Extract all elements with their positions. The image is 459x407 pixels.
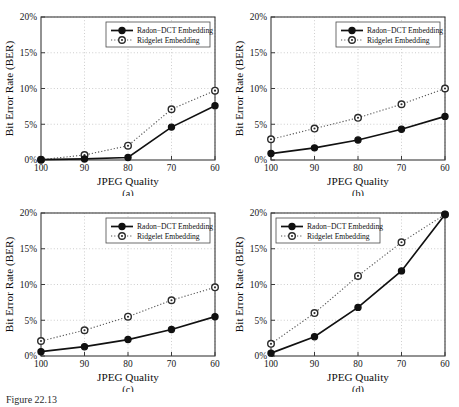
- data-point-marker-1: [442, 113, 448, 119]
- chart-svg-a: 0%5%10%15%20%10090807060JPEG QualityBit …: [0, 0, 229, 196]
- data-point-marker-1: [355, 137, 361, 143]
- y-tick-label: 15%: [250, 244, 267, 254]
- x-tick-label: 100: [34, 359, 48, 369]
- x-tick-label: 100: [264, 359, 278, 369]
- data-point-marker-core-2: [400, 241, 402, 243]
- legend-label-1: Radon−DCT Embedding: [137, 26, 213, 35]
- x-tick-label: 70: [397, 163, 407, 173]
- legend-sample-marker-core-2: [291, 235, 293, 237]
- legend-sample-marker-core-2: [121, 235, 123, 237]
- x-tick-label: 90: [310, 163, 320, 173]
- x-tick-label: 60: [440, 359, 450, 369]
- figure-caption-text: Figure 22.13: [0, 392, 459, 407]
- y-tick-label: 5%: [25, 316, 38, 326]
- data-point-marker-1: [168, 124, 174, 130]
- panel-label: (a): [122, 188, 133, 196]
- data-point-marker-1: [268, 150, 274, 156]
- data-point-marker-1: [81, 344, 87, 350]
- chart-panel-d: 0%5%10%15%20%10090807060JPEG QualityBit …: [230, 196, 459, 392]
- x-tick-label: 100: [264, 163, 278, 173]
- chart-svg-d: 0%5%10%15%20%10090807060JPEG QualityBit …: [230, 196, 459, 392]
- legend-sample-marker-1: [119, 27, 125, 33]
- figure-container: 0%5%10%15%20%10090807060JPEG QualityBit …: [0, 0, 459, 407]
- y-tick-label: 15%: [20, 244, 37, 254]
- x-tick-label: 90: [310, 359, 320, 369]
- y-axis-title: Bit Error Rate (BER): [3, 237, 16, 333]
- data-point-marker-core-2: [313, 127, 315, 129]
- y-tick-label: 20%: [250, 208, 267, 218]
- chart-svg-b: 0%5%10%15%20%10090807060JPEG QualityBit …: [230, 0, 459, 196]
- panel-label: (c): [122, 384, 133, 392]
- data-point-marker-1: [125, 336, 131, 342]
- data-point-marker-core-2: [357, 275, 359, 277]
- x-tick-label: 80: [123, 359, 133, 369]
- legend-sample-marker-core-2: [121, 39, 123, 41]
- data-point-marker-1: [442, 211, 448, 217]
- data-point-marker-core-2: [270, 138, 272, 140]
- x-tick-label: 80: [353, 359, 363, 369]
- y-tick-label: 20%: [20, 12, 37, 22]
- y-axis-title: Bit Error Rate (BER): [233, 237, 246, 333]
- x-axis-title: JPEG Quality: [327, 371, 389, 383]
- y-tick-label: 10%: [250, 280, 267, 290]
- legend-label-1: Radon−DCT Embedding: [367, 26, 443, 35]
- legend-label-2: Ridgelet Embedding: [307, 232, 370, 241]
- data-point-marker-1: [38, 157, 44, 163]
- x-tick-label: 70: [397, 359, 407, 369]
- y-tick-label: 15%: [20, 48, 37, 58]
- data-point-marker-1: [311, 145, 317, 151]
- x-tick-label: 80: [123, 163, 133, 173]
- data-point-marker-core-2: [127, 145, 129, 147]
- data-point-marker-core-2: [313, 312, 315, 314]
- legend-label-2: Ridgelet Embedding: [137, 232, 200, 241]
- data-point-marker-1: [355, 304, 361, 310]
- legend-sample-marker-1: [289, 223, 295, 229]
- legend-sample-marker-1: [119, 223, 125, 229]
- data-point-marker-core-2: [444, 87, 446, 89]
- y-tick-label: 5%: [255, 316, 268, 326]
- y-tick-label: 5%: [255, 120, 268, 130]
- x-tick-label: 70: [167, 359, 177, 369]
- legend-sample-marker-core-2: [351, 39, 353, 41]
- chart-panel-a: 0%5%10%15%20%10090807060JPEG QualityBit …: [0, 0, 229, 196]
- legend-label-1: Radon−DCT Embedding: [137, 222, 213, 231]
- panel-label: (b): [352, 188, 364, 196]
- data-point-marker-1: [38, 349, 44, 355]
- data-point-marker-1: [311, 334, 317, 340]
- data-point-marker-core-2: [170, 108, 172, 110]
- y-tick-label: 10%: [20, 84, 37, 94]
- x-axis-title: JPEG Quality: [97, 175, 159, 187]
- data-point-marker-core-2: [270, 343, 272, 345]
- data-point-marker-1: [81, 156, 87, 162]
- figure-caption: Figure 22.13: [0, 392, 459, 407]
- chart-panel-b: 0%5%10%15%20%10090807060JPEG QualityBit …: [230, 0, 459, 196]
- data-point-marker-1: [212, 314, 218, 320]
- legend-label-2: Ridgelet Embedding: [367, 36, 430, 45]
- legend-label-1: Radon−DCT Embedding: [307, 222, 383, 231]
- data-point-marker-core-2: [127, 316, 129, 318]
- legend-label-2: Ridgelet Embedding: [137, 36, 200, 45]
- data-point-marker-core-2: [40, 340, 42, 342]
- y-tick-label: 20%: [250, 12, 267, 22]
- data-point-marker-core-2: [400, 103, 402, 105]
- data-point-marker-core-2: [214, 90, 216, 92]
- chart-panel-c: 0%5%10%15%20%10090807060JPEG QualityBit …: [0, 196, 229, 392]
- y-tick-label: 15%: [250, 48, 267, 58]
- x-axis-title: JPEG Quality: [97, 371, 159, 383]
- x-tick-label: 60: [210, 163, 220, 173]
- data-point-marker-1: [398, 126, 404, 132]
- data-point-marker-1: [125, 154, 131, 160]
- x-axis-title: JPEG Quality: [327, 175, 389, 187]
- x-tick-label: 60: [440, 163, 450, 173]
- data-point-marker-1: [212, 103, 218, 109]
- x-tick-label: 90: [80, 163, 90, 173]
- y-axis-title: Bit Error Rate (BER): [233, 41, 246, 137]
- data-point-marker-1: [268, 350, 274, 356]
- data-point-marker-core-2: [170, 299, 172, 301]
- y-tick-label: 5%: [25, 120, 38, 130]
- data-point-marker-core-2: [83, 329, 85, 331]
- y-tick-label: 10%: [250, 84, 267, 94]
- y-tick-label: 20%: [20, 208, 37, 218]
- x-tick-label: 60: [210, 359, 220, 369]
- chart-svg-c: 0%5%10%15%20%10090807060JPEG QualityBit …: [0, 196, 229, 392]
